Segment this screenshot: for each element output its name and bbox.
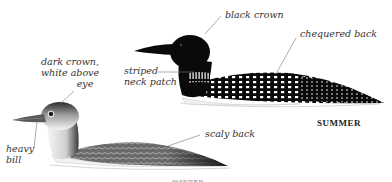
season-label-summer: SUMMER — [317, 118, 361, 128]
label-text: scaly back — [205, 128, 255, 139]
label-black-crown: black crown — [225, 9, 284, 20]
label-line: white above — [40, 67, 100, 78]
loon-illustration: black crown chequered back striped neck … — [0, 0, 392, 182]
label-scaly-back: scaly back — [205, 128, 255, 139]
leader-dark-crown — [60, 91, 74, 104]
label-line: striped — [124, 65, 177, 76]
label-text: black crown — [225, 9, 284, 20]
season-label-winter: WINTER — [172, 178, 204, 182]
leader-scaly-back — [168, 135, 200, 146]
label-heavy-bill: heavy bill — [6, 143, 34, 165]
label-line: dark crown, — [40, 56, 100, 67]
leader-black-crown — [205, 16, 221, 34]
label-dark-crown: dark crown, white above eye — [40, 56, 100, 89]
label-chequered-back: chequered back — [300, 28, 377, 39]
label-striped-neck-patch: striped neck patch — [124, 65, 177, 87]
leader-heavy-bill — [34, 121, 37, 148]
label-line: bill — [6, 154, 34, 165]
label-line: neck patch — [124, 76, 177, 87]
label-line: heavy — [6, 143, 34, 154]
label-text: chequered back — [300, 28, 377, 39]
leader-chequered-back — [276, 38, 296, 74]
label-line: eye — [40, 78, 100, 89]
